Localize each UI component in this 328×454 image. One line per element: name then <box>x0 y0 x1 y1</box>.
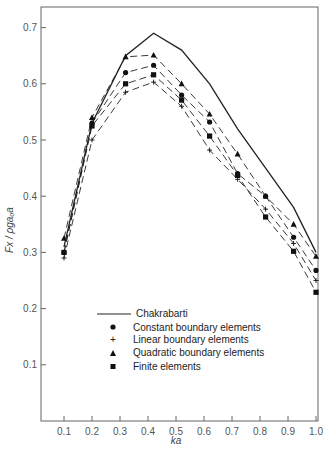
series-line <box>64 33 316 252</box>
circle-marker-icon <box>151 63 156 68</box>
y-tick-label: 0.3 <box>23 247 37 258</box>
legend-linear: Linear boundary elements <box>133 334 249 345</box>
x-tick-label: 0.3 <box>113 426 127 437</box>
square-marker-icon <box>123 81 128 86</box>
y-tick-label: 0.5 <box>23 135 37 146</box>
x-tick-label: 1.0 <box>309 426 323 437</box>
y-tick-label: 0.7 <box>23 22 37 33</box>
square-marker-icon <box>179 97 184 102</box>
x-tick-label: 0.8 <box>253 426 267 437</box>
triangle-marker-icon <box>89 114 95 120</box>
triangle-marker-icon <box>291 221 297 227</box>
circle-marker-icon <box>179 92 184 97</box>
square-marker-icon <box>291 249 296 254</box>
legend-quadratic: Quadratic boundary elements <box>133 347 264 358</box>
y-tick-label: 0.1 <box>23 359 37 370</box>
circle-marker-icon <box>123 70 128 75</box>
circle-marker-icon <box>313 268 318 273</box>
square-marker-icon <box>151 72 156 77</box>
legend-plus-icon: + <box>110 334 116 345</box>
series-line <box>64 75 316 292</box>
legend-constant: Constant boundary elements <box>133 322 261 333</box>
legend-chakrabarti: Chakrabarti <box>136 308 188 319</box>
square-marker-icon <box>61 250 66 255</box>
square-marker-icon <box>235 173 240 178</box>
x-tick-label: 0.1 <box>57 426 71 437</box>
x-tick-label: 0.7 <box>225 426 239 437</box>
y-tick-label: 0.4 <box>23 191 37 202</box>
x-tick-label: 0.9 <box>281 426 295 437</box>
chart: 0.10.20.30.40.50.60.70.80.91.00.10.20.30… <box>0 0 328 454</box>
y-tick-label: 0.2 <box>23 303 37 314</box>
circle-marker-icon <box>291 235 296 240</box>
square-marker-icon <box>89 123 94 128</box>
legend-square-icon <box>111 364 116 369</box>
square-marker-icon <box>207 133 212 138</box>
series-line <box>64 82 316 280</box>
y-axis-label: Fx / ρgaₒa <box>4 207 15 253</box>
x-tick-label: 0.6 <box>197 426 211 437</box>
chart-series <box>61 33 319 295</box>
x-tick-label: 0.2 <box>85 426 99 437</box>
y-tick-label: 0.6 <box>23 78 37 89</box>
square-marker-icon <box>263 214 268 219</box>
circle-marker-icon <box>207 119 212 124</box>
legend-triangle-icon <box>110 350 116 356</box>
legend-finite: Finite elements <box>133 361 201 372</box>
square-marker-icon <box>313 290 318 295</box>
triangle-marker-icon <box>235 151 241 157</box>
chart-legend: Chakrabarti Constant boundary elements +… <box>97 308 264 372</box>
legend-circle-icon <box>110 324 115 329</box>
series-line <box>64 55 316 256</box>
triangle-marker-icon <box>151 52 157 58</box>
x-tick-label: 0.4 <box>141 426 155 437</box>
x-axis-label: ka <box>171 435 182 446</box>
plot-frame <box>41 7 318 421</box>
series-line <box>64 65 316 270</box>
